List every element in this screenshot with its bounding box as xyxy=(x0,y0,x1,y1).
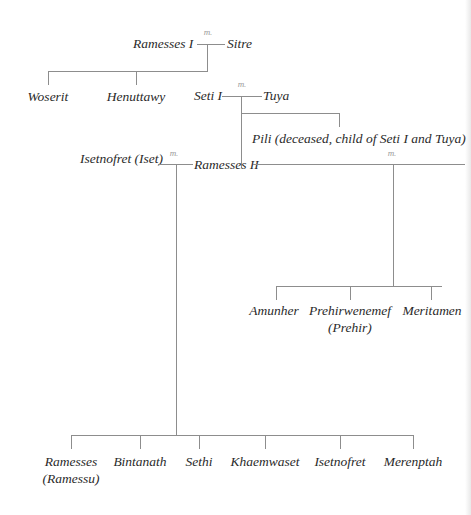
drop-merenptah xyxy=(413,435,414,449)
marriage-label: m. xyxy=(204,27,213,37)
person-merenptah: Merenptah xyxy=(384,453,443,470)
drop-prehirwenemef xyxy=(350,286,351,300)
descent-line-second-wife xyxy=(393,164,394,286)
marriage-label: m. xyxy=(388,148,397,158)
drop-henuttawy xyxy=(136,71,137,85)
drop-isetnofret xyxy=(340,435,341,449)
sibling-bar-second-wife-children xyxy=(276,286,442,287)
marriage-line-ramesses-ii-second-wife xyxy=(253,164,465,165)
marriage-label: m. xyxy=(238,79,247,89)
drop-khaemwaset xyxy=(265,435,266,449)
drop-amunher xyxy=(276,286,277,300)
person-isetnofret-daughter: Isetnofret xyxy=(314,453,365,470)
sibling-bar-isetnofret-children xyxy=(71,435,414,436)
descent-line-gen1 xyxy=(207,44,208,71)
person-khaemwaset: Khaemwaset xyxy=(231,453,300,470)
drop-sethi xyxy=(199,435,200,449)
person-henuttawy: Henuttawy xyxy=(107,88,166,105)
sibling-bar-gen1 xyxy=(48,71,208,72)
person-sethi: Sethi xyxy=(186,453,213,470)
drop-meritamen xyxy=(431,286,432,300)
person-isetnofret-iset: Isetnofret (Iset) xyxy=(80,150,163,167)
person-prehirwenemef: Prehirwenemef(Prehir) xyxy=(309,302,391,336)
person-pili: Pili (deceased, child of Seti I and Tuya… xyxy=(252,130,466,147)
person-meritamen: Meritamen xyxy=(402,302,461,319)
person-ramesses-ii: Ramesses II xyxy=(194,156,259,173)
person-ramesses-ramessu: Ramesses(Ramessu) xyxy=(43,453,100,487)
page-edge-shadow xyxy=(465,0,471,515)
person-ramesses-i: Ramesses I xyxy=(133,35,193,52)
drop-bintanath xyxy=(140,435,141,449)
marriage-label: m. xyxy=(170,148,179,158)
person-seti-i: Seti I xyxy=(194,87,222,104)
marriage-line-seti-tuya xyxy=(222,96,262,97)
person-tuya: Tuya xyxy=(263,87,289,104)
drop-woserit xyxy=(48,71,49,85)
drop-ramesses xyxy=(71,435,72,449)
marriage-line-ramesses-i-sitre xyxy=(197,44,225,45)
person-sitre: Sitre xyxy=(227,35,252,52)
sibling-bar-gen2 xyxy=(241,113,340,114)
descent-line-isetnofret xyxy=(176,164,177,435)
person-bintanath: Bintanath xyxy=(113,453,166,470)
person-amunher: Amunher xyxy=(249,302,299,319)
person-woserit: Woserit xyxy=(28,88,69,105)
drop-pili xyxy=(339,113,340,127)
